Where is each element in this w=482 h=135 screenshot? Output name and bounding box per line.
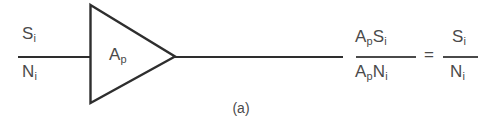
output-noise-symbol: N: [373, 62, 385, 81]
input-snr-denominator: Ni: [22, 62, 37, 82]
result-signal-subscript: i: [464, 35, 466, 47]
result-noise-symbol: N: [450, 62, 462, 81]
input-noise-subscript: i: [34, 70, 36, 82]
output-wire: [174, 56, 343, 58]
amplifier-triangle-icon: [86, 0, 181, 110]
amplifier-gain-label: Ap: [109, 45, 127, 65]
output-signal-symbol: S: [373, 27, 385, 46]
result-fraction-denominator: Ni: [450, 62, 465, 82]
output-signal-subscript: i: [384, 35, 386, 47]
amplifier-gain-subscript: p: [121, 53, 127, 65]
input-noise-symbol: N: [22, 62, 34, 81]
figure-caption: (a): [0, 100, 482, 116]
result-noise-subscript: i: [462, 70, 464, 82]
result-signal-symbol: S: [452, 27, 464, 46]
output-fraction-numerator: ApSi: [355, 27, 387, 47]
output-fraction-denominator: ApNi: [355, 62, 388, 82]
result-fraction-bar: [443, 56, 478, 58]
result-fraction-numerator: Si: [452, 27, 466, 47]
input-signal-symbol: S: [22, 24, 34, 43]
equals-sign: =: [424, 45, 434, 65]
output-noise-subscript: i: [385, 70, 387, 82]
output-fraction-bar: [356, 56, 416, 58]
output-gain-symbol-denominator: A: [355, 62, 367, 81]
output-gain-symbol: A: [355, 27, 367, 46]
input-signal-subscript: i: [34, 32, 36, 44]
amplifier-gain-symbol: A: [109, 45, 121, 64]
amplifier-snr-diagram: Si Ni Ap ApSi ApNi = Si Ni (a): [0, 0, 482, 135]
input-wire: [18, 56, 91, 58]
input-snr-numerator: Si: [22, 24, 36, 44]
